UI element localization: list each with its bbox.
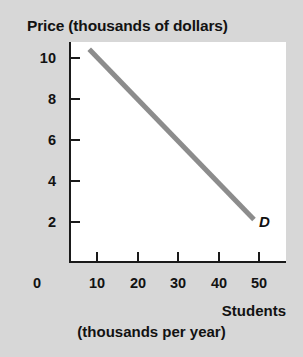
x-tick-10 (96, 252, 98, 262)
x-axis-subtitle: (thousands per year) (0, 323, 303, 340)
y-tick-6 (71, 139, 80, 141)
y-tick-10 (71, 57, 80, 59)
y-tick-label-10: 10 (22, 50, 56, 66)
y-tick-label-2: 2 (22, 214, 56, 230)
demand-curve-label: D (259, 213, 270, 230)
x-axis-title: Students (222, 302, 286, 319)
x-tick-label-50: 50 (242, 275, 276, 291)
x-tick-label-20: 20 (121, 275, 155, 291)
x-tick-label-0: 0 (20, 275, 54, 291)
plot-area (70, 42, 286, 262)
y-axis-line (69, 42, 71, 263)
demand-curve-figure: Price (thousands of dollars) 10 8 6 4 2 … (0, 0, 303, 357)
y-tick-label-4: 4 (22, 173, 56, 189)
x-tick-label-40: 40 (202, 275, 236, 291)
x-tick-40 (218, 252, 220, 262)
y-tick-4 (71, 180, 80, 182)
chart-title: Price (thousands of dollars) (27, 17, 282, 35)
x-tick-30 (177, 252, 179, 262)
y-tick-2 (71, 221, 80, 223)
y-tick-label-6: 6 (22, 132, 56, 148)
y-tick-label-8: 8 (22, 91, 56, 107)
x-tick-50 (258, 252, 260, 262)
x-tick-20 (137, 252, 139, 262)
y-tick-8 (71, 98, 80, 100)
x-tick-label-30: 30 (161, 275, 195, 291)
x-tick-label-10: 10 (80, 275, 114, 291)
